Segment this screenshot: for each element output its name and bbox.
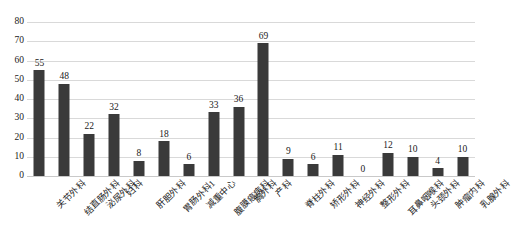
bar	[59, 84, 70, 176]
y-axis-tick-label: 0	[2, 171, 24, 181]
bar	[407, 157, 418, 176]
bar-group: 22	[77, 22, 102, 176]
bar	[133, 161, 144, 176]
bar	[308, 164, 319, 176]
bar	[233, 107, 244, 176]
bar-value-label: 22	[84, 122, 94, 132]
bar-value-label: 6	[186, 153, 191, 163]
bar-group: 18	[151, 22, 176, 176]
bar-group: 4	[425, 22, 450, 176]
bar-value-label: 69	[259, 32, 269, 42]
y-axis-tick-label: 70	[2, 37, 24, 47]
y-axis-tick-label: 40	[2, 94, 24, 104]
bar-group: 12	[375, 22, 400, 176]
y-axis-tick-label: 80	[2, 17, 24, 27]
bar	[432, 168, 443, 176]
bar	[158, 141, 169, 176]
x-axis-category-label: 产科	[275, 179, 294, 198]
bar-group: 11	[326, 22, 351, 176]
bar-value-label: 8	[137, 149, 142, 159]
bar-group: 0	[351, 22, 376, 176]
bar-value-label: 10	[458, 145, 468, 155]
bar-value-label: 55	[35, 59, 45, 69]
bar-group: 10	[400, 22, 425, 176]
y-axis-tick-label: 50	[2, 75, 24, 85]
bar	[109, 114, 120, 176]
bar	[84, 134, 95, 176]
bar-group: 9	[276, 22, 301, 176]
bar-value-label: 36	[234, 95, 244, 105]
bar-value-label: 9	[286, 147, 291, 157]
bar-group: 69	[251, 22, 276, 176]
bar-group: 33	[201, 22, 226, 176]
y-axis-tick-label: 30	[2, 114, 24, 124]
bar-value-label: 0	[361, 165, 366, 175]
x-axis-category-label: 关节外科	[56, 179, 88, 211]
bar	[183, 164, 194, 176]
bar	[457, 157, 468, 176]
bar-value-label: 33	[209, 101, 219, 111]
bar	[34, 70, 45, 176]
bar-group: 32	[102, 22, 127, 176]
bar	[258, 43, 269, 176]
bar-group: 8	[127, 22, 152, 176]
y-axis-tick-label: 20	[2, 133, 24, 143]
y-axis-tick-label: 60	[2, 56, 24, 66]
y-axis-tick-label: 10	[2, 152, 24, 162]
bar	[283, 159, 294, 176]
bar-group: 10	[450, 22, 475, 176]
bar-value-label: 18	[159, 130, 169, 140]
bar-value-label: 10	[408, 145, 418, 155]
bar-group: 6	[301, 22, 326, 176]
bar-group: 36	[226, 22, 251, 176]
y-axis: 80706050403020100	[0, 22, 24, 176]
bar-value-label: 4	[435, 157, 440, 167]
bar-value-label: 11	[334, 143, 343, 153]
bar-value-label: 48	[60, 72, 70, 82]
bar	[382, 153, 393, 176]
bar-value-label: 32	[109, 103, 119, 113]
x-axis-labels: 关节外科结直肠外科泌尿外科妇科肝胆外科胃肠外科1减重中心腹膜癌病科胸外科产科脊柱…	[27, 177, 475, 241]
bar-value-label: 6	[311, 153, 316, 163]
bar	[208, 112, 219, 176]
bar-group: 6	[176, 22, 201, 176]
bar-value-label: 12	[383, 141, 393, 151]
bars-layer: 554822328186333669961101210410	[27, 22, 475, 176]
bar	[333, 155, 344, 176]
bar-group: 55	[27, 22, 52, 176]
bar-group: 48	[52, 22, 77, 176]
